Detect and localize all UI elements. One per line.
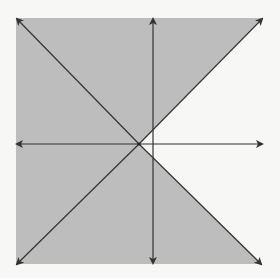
- shaded-region: [16, 18, 262, 264]
- intersection-point: [137, 142, 140, 145]
- inequality-graph: [0, 0, 280, 278]
